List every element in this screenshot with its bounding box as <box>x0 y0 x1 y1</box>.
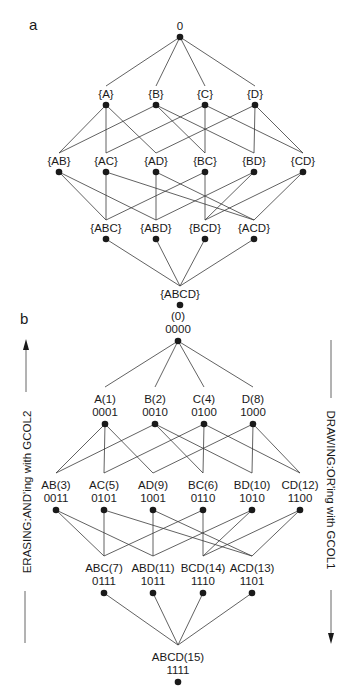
lattice-edge <box>59 172 106 220</box>
lattice-node-dot <box>103 236 110 243</box>
lattice-edge <box>105 424 153 473</box>
lattice-edge <box>59 172 156 220</box>
lattice-node-dot <box>53 507 60 514</box>
lattice-edge <box>106 172 254 220</box>
node-name-label: C(4) <box>193 393 215 405</box>
node-name-label: B(2) <box>144 393 166 405</box>
lattice-edge <box>104 593 178 645</box>
lattice-node-dot <box>202 102 209 109</box>
node-name-label: AC(5) <box>89 479 119 491</box>
node-set-label: {ABCD} <box>160 288 200 300</box>
lattice-edge <box>59 105 156 153</box>
node-name-label: ACD(13) <box>230 562 275 574</box>
lattice-node-dot <box>202 169 209 176</box>
panel-a-letter: a <box>29 17 37 32</box>
lattice-node-dot <box>249 590 256 597</box>
lattice-edge <box>155 424 203 473</box>
node-set-label: {BD} <box>242 155 266 167</box>
lattice-edge <box>106 105 156 153</box>
lattice-node-dot <box>103 102 110 109</box>
lattice-node-dot <box>300 169 307 176</box>
node-set-label: {CD} <box>291 155 315 167</box>
lattice-edge <box>178 341 204 387</box>
lattice-edge <box>252 424 253 473</box>
node-set-label: {C} <box>197 88 213 100</box>
node-name-label: BC(6) <box>188 479 218 491</box>
node-name-label: BCD(14) <box>181 562 226 574</box>
node-name-label: AD(9) <box>138 479 168 491</box>
lattice-node-dot <box>250 421 257 428</box>
lattice-node-dot <box>103 169 110 176</box>
lattice-edge <box>156 105 205 153</box>
node-binary-code: 1011 <box>141 575 166 587</box>
lattice-node-dot <box>200 507 207 514</box>
node-binary-code: 1110 <box>191 575 215 587</box>
lattice-node-dot <box>251 236 258 243</box>
lattice-edge <box>156 239 180 286</box>
node-binary-code: 1000 <box>240 406 266 418</box>
lattice-edge <box>104 510 203 556</box>
erasing-annotation: ERASING:AND'ing with GCOL2 <box>21 411 33 574</box>
lattice-node-dot <box>177 34 184 41</box>
panel-b-letter: b <box>20 311 28 326</box>
lattice-edge <box>106 239 180 286</box>
lattice-edge <box>178 593 252 645</box>
lattice-edge <box>254 105 255 153</box>
arrow-down-icon <box>328 633 334 644</box>
lattice-edge <box>203 510 300 556</box>
lattice-edge <box>178 593 203 645</box>
lattice-node-dot <box>101 507 108 514</box>
node-binary-code: 0011 <box>44 492 69 504</box>
lattice-edge <box>156 37 180 86</box>
node-set-label: {BCD} <box>189 222 221 234</box>
node-binary-code: 0001 <box>92 406 118 418</box>
lattice-edge <box>255 105 303 153</box>
lattice-edge <box>104 510 252 556</box>
lattice-edge <box>205 172 254 220</box>
lattice-node-dot <box>150 507 157 514</box>
lattice-edge <box>153 593 178 645</box>
lattice-node-dot <box>202 236 209 243</box>
lattice-node-dot <box>150 590 157 597</box>
lattice-edge <box>178 341 253 387</box>
lattice-edge <box>180 37 255 86</box>
lattice-edge <box>252 510 300 556</box>
node-set-label: {B} <box>148 88 163 100</box>
lattice-edge <box>106 105 205 153</box>
node-name-label: (0) <box>171 310 185 322</box>
node-set-label: {AC} <box>94 155 118 167</box>
node-set-label: {ABC} <box>90 222 121 234</box>
lattice-node-dot <box>297 507 304 514</box>
node-name-label: ABC(7) <box>85 562 123 574</box>
node-binary-code: 0111 <box>92 575 116 587</box>
node-set-label: {BC} <box>193 155 217 167</box>
node-set-label: {ABD} <box>140 222 171 234</box>
node-name-label: AB(3) <box>41 479 70 491</box>
lattice-edge <box>205 172 303 220</box>
node-name-label: D(8) <box>242 393 264 405</box>
node-binary-code: 1001 <box>140 492 166 504</box>
lattice-node-dot <box>249 507 256 514</box>
lattice-edge <box>56 424 155 473</box>
lattice-edge <box>56 424 105 473</box>
node-binary-code: 0100 <box>191 406 217 418</box>
node-set-label: {AD} <box>144 155 168 167</box>
lattice-node-dot <box>101 590 108 597</box>
node-name-label: ABCD(15) <box>152 651 204 663</box>
lattice-node-dot <box>153 169 160 176</box>
panel-a-nodes <box>56 34 307 309</box>
lattice-node-dot <box>251 169 258 176</box>
lattice-node-dot <box>175 338 182 345</box>
node-name-label: A(1) <box>94 393 116 405</box>
lattice-node-dot <box>200 590 207 597</box>
panel-b-nodes <box>53 338 304 686</box>
lattice-edge <box>180 239 205 286</box>
lattice-edge <box>203 510 252 556</box>
lattice-node-dot <box>153 236 160 243</box>
node-binary-code: 0010 <box>142 406 168 418</box>
lattice-edge <box>253 424 300 473</box>
lattice-edge <box>59 105 106 153</box>
node-set-label: {ACD} <box>238 222 270 234</box>
lattice-edge <box>56 510 153 556</box>
lattice-node-dot <box>153 102 160 109</box>
